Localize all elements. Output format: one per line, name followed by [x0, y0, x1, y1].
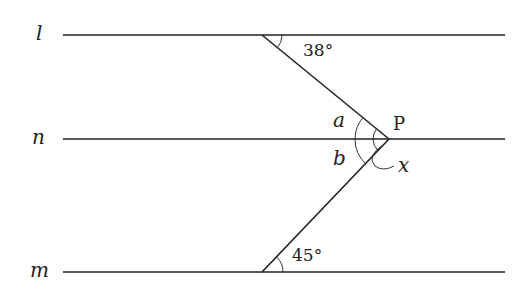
diagram-canvas: [0, 0, 528, 300]
arc-x-pointer: [372, 145, 394, 169]
label-line-m: m: [30, 258, 49, 282]
angle-45-label: 45°: [292, 245, 322, 265]
angle-b-label: b: [333, 146, 346, 170]
arc-b: [355, 139, 366, 164]
segment-lower: [262, 139, 389, 272]
arc-45: [277, 257, 283, 272]
label-line-l: l: [36, 21, 42, 45]
angle-38-label: 38°: [303, 40, 333, 60]
point-P-label: P: [393, 113, 405, 134]
parallel-lines-diagram: l n m 38° 45° a b x P: [0, 0, 528, 300]
label-line-n: n: [32, 125, 45, 149]
arc-38: [278, 35, 283, 48]
arc-a: [355, 118, 363, 139]
angle-a-label: a: [333, 108, 345, 132]
angle-x-label: x: [398, 153, 409, 177]
